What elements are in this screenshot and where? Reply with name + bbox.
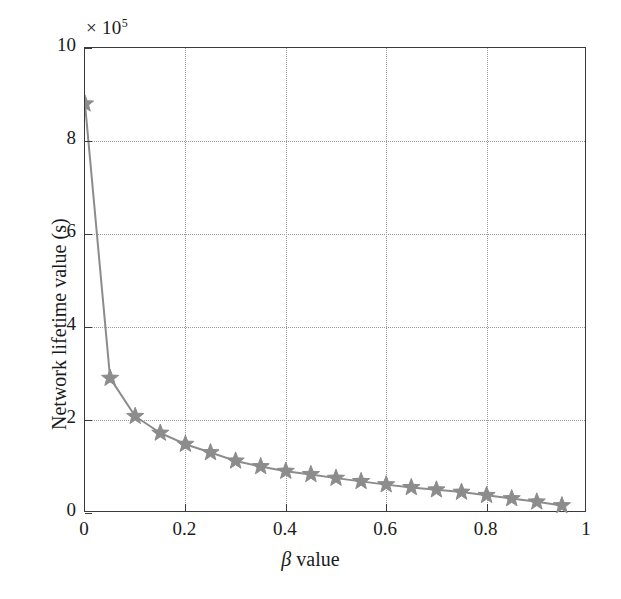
- data-point-marker: [177, 435, 194, 451]
- data-point-marker: [327, 469, 344, 485]
- x-axis-tick: [286, 504, 287, 511]
- data-point-marker: [227, 452, 244, 468]
- data-point-marker: [302, 465, 319, 481]
- data-point-marker: [553, 497, 570, 513]
- y-axis-tick: [85, 513, 92, 514]
- y-axis-exponent-label: × 105: [86, 16, 128, 39]
- y-axis-tick: [85, 420, 92, 421]
- series-polyline: [85, 104, 562, 506]
- y-axis-tick: [85, 48, 92, 49]
- plot-area: [84, 47, 586, 512]
- data-point-marker: [202, 444, 219, 460]
- data-point-marker: [378, 476, 395, 492]
- x-tick-label: 0: [54, 518, 114, 540]
- y-tick-label: 10: [34, 34, 76, 56]
- data-point-marker: [453, 483, 470, 499]
- y-axis-exponent-prefix: × 10: [86, 17, 122, 38]
- x-axis-title-symbol: β: [281, 548, 291, 570]
- data-point-marker: [403, 478, 420, 494]
- y-axis-title: Network lifetime value (s): [48, 218, 71, 430]
- figure-container: × 105 0246810 00.20.40.60.81 Network lif…: [0, 0, 621, 599]
- data-point-marker: [277, 462, 294, 478]
- data-point-marker: [428, 481, 445, 497]
- x-tick-label: 1: [556, 518, 616, 540]
- x-tick-label: 0.4: [255, 518, 315, 540]
- data-point-marker: [478, 486, 495, 502]
- y-axis-tick: [85, 327, 92, 328]
- data-point-marker: [528, 493, 545, 509]
- x-axis-tick: [487, 504, 488, 511]
- x-axis-title-rest: value: [291, 548, 339, 570]
- y-axis-tick: [85, 141, 92, 142]
- x-axis-tick: [185, 504, 186, 511]
- x-tick-label: 0.6: [355, 518, 415, 540]
- x-axis-title: β value: [0, 548, 621, 571]
- x-tick-label: 0.8: [456, 518, 516, 540]
- data-point-marker: [102, 369, 119, 385]
- data-point-marker: [85, 95, 94, 111]
- data-point-marker: [252, 458, 269, 474]
- x-tick-label: 0.2: [154, 518, 214, 540]
- y-axis-exponent-power: 5: [122, 16, 128, 30]
- data-point-marker: [503, 490, 520, 506]
- data-series-line: [85, 48, 587, 513]
- data-point-marker: [353, 472, 370, 488]
- y-axis-tick: [85, 234, 92, 235]
- x-axis-tick: [386, 504, 387, 511]
- data-point-marker: [152, 424, 169, 440]
- y-tick-label: 8: [34, 127, 76, 149]
